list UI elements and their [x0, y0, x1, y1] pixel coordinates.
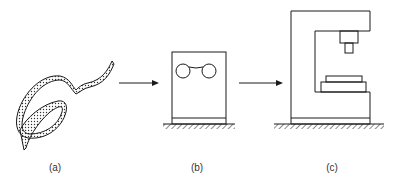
ram-icon [340, 31, 358, 43]
die-block-icon [321, 82, 366, 92]
punch-icon [345, 43, 353, 53]
arrow-a-to-b [119, 80, 159, 86]
roller-right-icon [202, 64, 216, 78]
panel-label-c: (c) [326, 162, 338, 173]
die-plate-icon [326, 76, 362, 82]
panel-label-b: (b) [191, 162, 203, 173]
roll-feed-machine [163, 52, 235, 129]
process-diagram [0, 0, 393, 180]
arrow-b-to-c [239, 80, 283, 86]
coiled-strip-icon [16, 61, 114, 150]
panel-label-a: (a) [49, 162, 61, 173]
c-frame-press [274, 11, 384, 129]
roller-left-icon [176, 64, 190, 78]
